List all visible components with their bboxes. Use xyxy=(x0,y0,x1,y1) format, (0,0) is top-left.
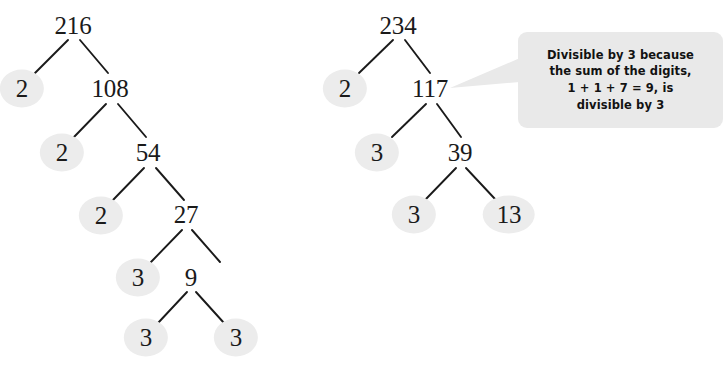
node-value-label: 39 xyxy=(448,140,473,165)
node-value-label: 216 xyxy=(55,13,92,38)
tree-edge xyxy=(118,104,146,137)
node-value-label: 3 xyxy=(408,202,420,227)
prime-factor-node: 2 xyxy=(95,203,107,228)
tree-edge xyxy=(74,104,106,137)
node-value-label: 117 xyxy=(412,76,448,101)
node-value-label: 9 xyxy=(185,265,197,290)
callout-text-line: the sum of the digits, xyxy=(547,63,694,80)
node-value-label: 234 xyxy=(380,13,417,38)
tree-edge xyxy=(80,40,108,73)
tree-edge xyxy=(35,40,68,73)
callout-text-line: Divisible by 3 because xyxy=(547,47,694,64)
prime-factor-node: 3 xyxy=(132,265,144,290)
tree-edge xyxy=(466,168,495,199)
callout-text-line: 1 + 1 + 7 = 9, is xyxy=(547,80,694,97)
callout-tail-group xyxy=(450,58,520,88)
tree-edge xyxy=(437,104,461,137)
composite-factor-node: 216 xyxy=(55,13,92,38)
prime-factor-node: 2 xyxy=(16,76,28,101)
tree-edge xyxy=(359,40,393,73)
factor-tree-diagram: 216210825422739332342117339313 Divisible… xyxy=(0,0,725,368)
node-value-label: 54 xyxy=(136,140,161,165)
prime-factor-node: 2 xyxy=(339,76,351,101)
composite-factor-node: 9 xyxy=(185,265,197,290)
node-value-label: 3 xyxy=(132,265,144,290)
composite-factor-node: 27 xyxy=(174,202,199,227)
prime-factor-node: 2 xyxy=(56,140,68,165)
callout-text-line: divisible by 3 xyxy=(547,97,694,114)
prime-factor-node: 3 xyxy=(408,202,420,227)
tree-edge xyxy=(156,168,184,200)
composite-factor-node: 54 xyxy=(136,140,161,165)
callout-tail xyxy=(450,58,520,88)
prime-factor-node: 3 xyxy=(371,140,383,165)
tree-edge xyxy=(151,230,182,262)
node-value-label: 3 xyxy=(230,325,242,350)
callout-text: Divisible by 3 becausethe sum of the dig… xyxy=(539,47,702,114)
node-value-label: 2 xyxy=(16,76,28,101)
prime-factor-node: 3 xyxy=(140,325,152,350)
tree-edge xyxy=(158,292,187,323)
composite-factor-node: 234 xyxy=(380,13,417,38)
tree-edge xyxy=(192,230,220,262)
node-value-label: 3 xyxy=(371,140,383,165)
node-value-label: 2 xyxy=(95,203,107,228)
tree-edge xyxy=(426,168,456,199)
node-value-label: 2 xyxy=(339,76,351,101)
tree-edge xyxy=(196,292,224,323)
tree-edge xyxy=(392,104,426,137)
node-value-label: 2 xyxy=(56,140,68,165)
composite-factor-node: 39 xyxy=(448,140,473,165)
callout-box: Divisible by 3 becausethe sum of the dig… xyxy=(518,32,723,128)
node-value-label: 27 xyxy=(174,202,199,227)
prime-factor-node: 13 xyxy=(497,202,522,227)
node-value-label: 13 xyxy=(497,202,522,227)
tree-edge xyxy=(113,168,144,200)
composite-factor-node: 117 xyxy=(412,76,448,101)
node-value-label: 108 xyxy=(92,76,129,101)
composite-factor-node: 108 xyxy=(92,76,129,101)
prime-factor-node: 3 xyxy=(230,325,242,350)
node-value-label: 3 xyxy=(140,325,152,350)
tree-edge xyxy=(405,40,430,73)
